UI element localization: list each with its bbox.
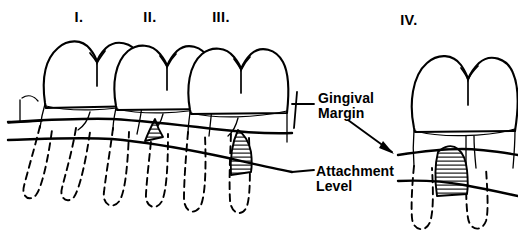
tooth-4-pocket-hatched	[436, 146, 468, 196]
gingival-margin-label-line1: Gingival	[318, 90, 374, 106]
tooth-4-root-mesial	[412, 166, 433, 229]
tooth-3-root-mesial	[184, 132, 206, 212]
numeral-label-3: III.	[212, 9, 230, 25]
attachment-level-label-line1: Attachment	[316, 163, 394, 179]
numeral-label-1: I.	[75, 9, 84, 25]
numeral-label-2: II.	[143, 9, 156, 25]
numeral-label-4: IV.	[400, 12, 418, 28]
diagram-figure: I. II. III. IV. Gingival Margin Attachme…	[0, 0, 518, 239]
gingival-margin-label-line2: Margin	[318, 105, 365, 121]
tooth-4-root-distal	[466, 168, 488, 229]
attachment-level-label-line2: Level	[316, 178, 352, 194]
periodontal-diagram-svg: I. II. III. IV. Gingival Margin Attachme…	[0, 0, 518, 239]
tooth-4-trunk-mesial	[413, 130, 414, 166]
